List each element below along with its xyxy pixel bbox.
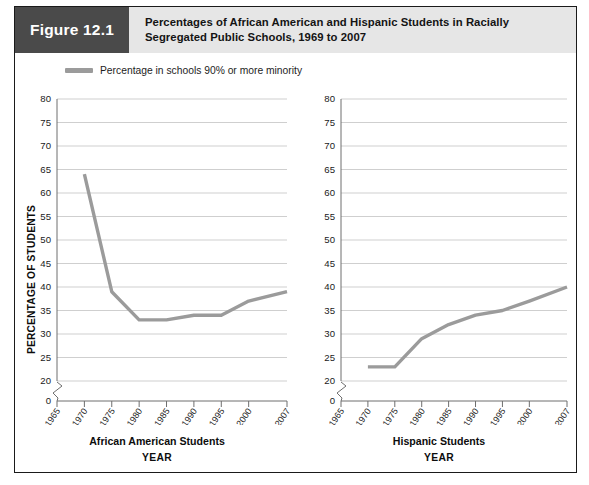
x-axis-tick-label: 1990 <box>461 406 481 425</box>
y-axis-tick-label: 30 <box>324 328 335 339</box>
y-axis-tick-label: 60 <box>40 187 51 198</box>
y-axis-tick-label: 0 <box>330 395 335 406</box>
y-axis-break-icon <box>337 382 346 401</box>
y-axis-tick-label: 55 <box>324 211 335 222</box>
chart-panel-african-american: 2025303540455055606570758001965197019751… <box>19 85 295 470</box>
y-axis-tick-label: 60 <box>324 187 335 198</box>
y-axis-tick-label: 40 <box>324 281 335 292</box>
y-axis-tick-label: 55 <box>40 211 51 222</box>
y-axis-tick-label: 75 <box>324 117 335 128</box>
figure-title-band: Percentages of African American and Hisp… <box>129 7 576 53</box>
y-axis-tick-label: 45 <box>40 258 51 269</box>
y-axis-tick-label: 35 <box>324 305 335 316</box>
x-axis-title-right: YEAR <box>303 449 575 466</box>
figure-number-tag: Figure 12.1 <box>15 7 129 53</box>
panel-captions-left: African American Students YEAR <box>19 433 295 466</box>
chart-legend: Percentage in schools 90% or more minori… <box>65 65 302 76</box>
y-axis-tick-label: 35 <box>40 305 51 316</box>
x-axis-tick-label: 1970 <box>70 406 90 425</box>
y-axis-tick-label: 30 <box>40 328 51 339</box>
legend-line-swatch-icon <box>65 68 93 73</box>
y-axis-tick-label: 20 <box>324 375 335 386</box>
panel-title-left: African American Students <box>19 433 295 449</box>
data-series-line <box>84 174 287 320</box>
x-axis-tick-label: 1980 <box>125 406 145 425</box>
y-axis-tick-label: 40 <box>40 281 51 292</box>
y-axis-tick-label: 70 <box>40 140 51 151</box>
x-axis-tick-label: 1965 <box>43 406 63 425</box>
x-axis-tick-label: 1970 <box>354 406 374 425</box>
line-chart-hispanic: 2025303540455055606570758001965197019751… <box>303 85 575 425</box>
chart-panel-hispanic: 2025303540455055606570758001965197019751… <box>303 85 575 470</box>
x-axis-tick-label: 1980 <box>407 406 427 425</box>
legend-label: Percentage in schools 90% or more minori… <box>100 65 302 76</box>
x-axis-tick-label: 2007 <box>273 406 293 425</box>
figure-root: Figure 12.1 Percentages of African Ameri… <box>0 0 589 485</box>
x-axis-tick-label: 1995 <box>488 406 508 425</box>
x-axis-tick-label: 2000 <box>234 406 254 425</box>
x-axis-tick-label: 2007 <box>553 406 573 425</box>
y-axis-tick-label: 50 <box>324 234 335 245</box>
data-series-line <box>368 287 567 367</box>
y-axis-tick-label: 65 <box>40 164 51 175</box>
y-axis-tick-label: 65 <box>324 164 335 175</box>
figure-frame: Figure 12.1 Percentages of African Ameri… <box>14 6 577 473</box>
y-axis-tick-label: 70 <box>324 140 335 151</box>
x-axis-tick-label: 1990 <box>180 406 200 425</box>
figure-header: Figure 12.1 Percentages of African Ameri… <box>15 7 576 53</box>
x-axis-tick-label: 1965 <box>327 406 347 425</box>
y-axis-tick-label: 25 <box>40 352 51 363</box>
y-axis-tick-label: 45 <box>324 258 335 269</box>
panel-captions-right: Hispanic Students YEAR <box>303 433 575 466</box>
x-axis-tick-label: 1975 <box>97 406 117 425</box>
y-axis-tick-label: 75 <box>40 117 51 128</box>
panel-title-right: Hispanic Students <box>303 433 575 449</box>
x-axis-title-left: YEAR <box>19 449 295 466</box>
y-axis-tick-label: 20 <box>40 375 51 386</box>
y-axis-tick-label: 50 <box>40 234 51 245</box>
x-axis-tick-label: 1975 <box>380 406 400 425</box>
x-axis-tick-label: 1985 <box>152 406 172 425</box>
y-axis-tick-label: 80 <box>40 93 51 104</box>
figure-title-line-1: Percentages of African American and Hisp… <box>145 15 564 30</box>
x-axis-tick-label: 1985 <box>434 406 454 425</box>
y-axis-break-icon <box>53 382 62 401</box>
y-axis-tick-label: 80 <box>324 93 335 104</box>
x-axis-tick-label: 1995 <box>207 406 227 425</box>
y-axis-tick-label: 0 <box>46 395 51 406</box>
charts-area: PERCENTAGE OF STUDENTS 20253035404550556… <box>15 85 576 470</box>
figure-title-line-2: Segregated Public Schools, 1969 to 2007 <box>145 30 564 45</box>
x-axis-tick-label: 2000 <box>515 406 535 425</box>
line-chart-african-american: 2025303540455055606570758001965197019751… <box>19 85 295 425</box>
y-axis-tick-label: 25 <box>324 352 335 363</box>
